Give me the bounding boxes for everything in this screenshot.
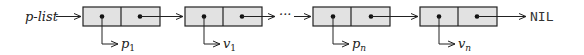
car-label: p1 — [121, 36, 135, 53]
nil-terminator: NIL — [530, 9, 554, 24]
list-node-3: pn — [313, 7, 418, 53]
car-label: vn — [458, 36, 471, 53]
list-node-1: p1 — [83, 7, 183, 53]
list-node-4: vn — [420, 7, 526, 53]
ellipsis: ··· — [279, 7, 291, 22]
linked-list-diagram: p-list p1 v1 ··· pn — [0, 0, 584, 55]
car-label: pn — [352, 36, 366, 53]
list-node-2: v1 — [185, 7, 275, 53]
car-label: v1 — [223, 36, 236, 53]
head-label: p-list — [25, 9, 59, 24]
